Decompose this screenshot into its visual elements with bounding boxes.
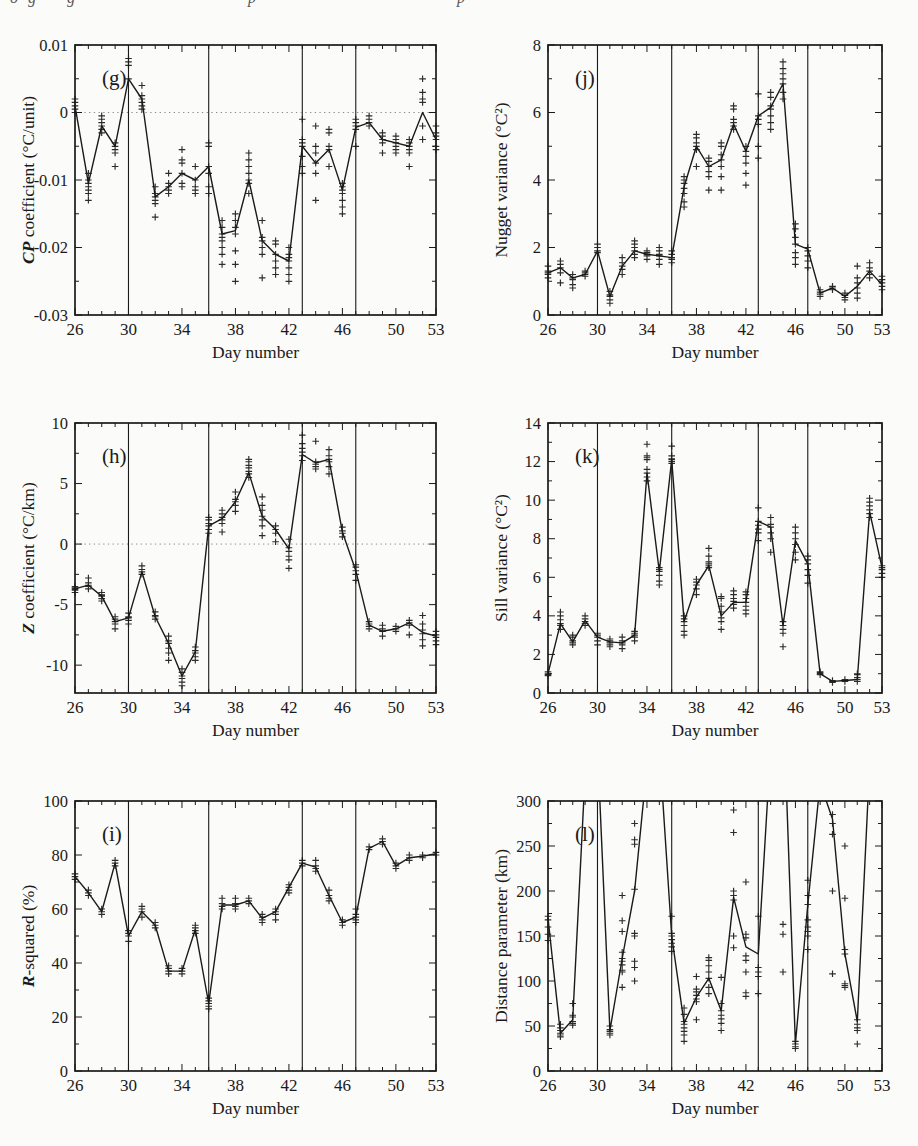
y-tick-label: 4 bbox=[533, 606, 541, 625]
y-tick-label: 60 bbox=[52, 900, 69, 919]
x-tick-label: 38 bbox=[227, 698, 244, 717]
x-tick-label: 38 bbox=[688, 1076, 705, 1095]
y-tick-label: 10 bbox=[52, 414, 69, 433]
y-tick-label: 0 bbox=[60, 535, 68, 554]
x-tick-label: 53 bbox=[874, 320, 891, 339]
x-axis-label: Day number bbox=[212, 1098, 299, 1118]
y-tick-label: 2 bbox=[533, 238, 541, 257]
x-tick-label: 34 bbox=[173, 1076, 191, 1095]
panel-letter: (g) bbox=[102, 66, 127, 90]
y-tick-label: -0.01 bbox=[34, 171, 68, 190]
x-tick-label: 30 bbox=[589, 698, 606, 717]
x-tick-label: 50 bbox=[387, 1076, 404, 1095]
y-axis-label: Nugget variance (°C²) bbox=[491, 102, 511, 257]
x-tick-label: 50 bbox=[836, 320, 853, 339]
y-tick-label: 0.01 bbox=[39, 36, 68, 55]
figure-panels: -0.03-0.02-0.0100.012630343842465053Day … bbox=[0, 0, 918, 1146]
panel-letter: (l) bbox=[575, 822, 595, 846]
x-tick-label: 26 bbox=[67, 698, 84, 717]
scatter-points bbox=[545, 59, 886, 307]
y-tick-label: -5 bbox=[54, 595, 68, 614]
y-tick-label: 100 bbox=[43, 792, 68, 811]
scatter-points bbox=[545, 441, 886, 686]
x-tick-label: 30 bbox=[120, 320, 137, 339]
x-tick-label: 30 bbox=[589, 320, 606, 339]
plot-border bbox=[548, 45, 882, 315]
y-tick-label: 4 bbox=[533, 171, 541, 190]
panel-k: 024681012142630343842465053Day numberSil… bbox=[478, 403, 918, 767]
y-tick-label: -0.02 bbox=[34, 238, 68, 257]
panel-g: -0.03-0.02-0.0100.012630343842465053Day … bbox=[20, 25, 470, 389]
x-tick-label: 46 bbox=[787, 1076, 804, 1095]
x-tick-label: 53 bbox=[428, 320, 445, 339]
y-tick-label: 100 bbox=[516, 972, 541, 991]
panel-l: 0501001502002503002630343842465053Day nu… bbox=[478, 781, 918, 1145]
mean-line bbox=[75, 79, 436, 261]
x-tick-label: 38 bbox=[227, 1076, 244, 1095]
x-tick-label: 50 bbox=[836, 1076, 853, 1095]
y-tick-label: 20 bbox=[52, 1008, 69, 1027]
y-tick-label: 2 bbox=[533, 645, 541, 664]
mean-line bbox=[548, 460, 882, 682]
x-tick-label: 53 bbox=[428, 698, 445, 717]
x-tick-label: 46 bbox=[334, 698, 351, 717]
x-tick-label: 42 bbox=[737, 320, 754, 339]
y-tick-label: 8 bbox=[533, 36, 541, 55]
x-axis-label: Day number bbox=[672, 720, 759, 740]
x-tick-label: 46 bbox=[334, 320, 351, 339]
x-tick-label: 46 bbox=[787, 698, 804, 717]
x-tick-label: 42 bbox=[280, 1076, 297, 1095]
x-tick-label: 42 bbox=[737, 698, 754, 717]
x-axis-label: Day number bbox=[212, 342, 299, 362]
x-tick-label: 53 bbox=[428, 1076, 445, 1095]
y-tick-label: 50 bbox=[525, 1017, 542, 1036]
x-tick-label: 42 bbox=[280, 698, 297, 717]
scatter-points bbox=[72, 432, 440, 689]
y-tick-label: 150 bbox=[516, 927, 541, 946]
panel-j: 024682630343842465053Day numberNugget va… bbox=[478, 25, 918, 389]
x-tick-label: 50 bbox=[387, 698, 404, 717]
y-tick-label: 8 bbox=[533, 529, 541, 548]
x-tick-label: 38 bbox=[227, 320, 244, 339]
x-tick-label: 34 bbox=[638, 1076, 656, 1095]
y-tick-label: 200 bbox=[516, 882, 541, 901]
y-tick-label: 5 bbox=[60, 474, 68, 493]
x-tick-label: 26 bbox=[67, 1076, 84, 1095]
y-tick-label: -10 bbox=[46, 656, 68, 675]
x-tick-label: 30 bbox=[120, 1076, 137, 1095]
x-tick-label: 38 bbox=[688, 698, 705, 717]
mean-line bbox=[548, 781, 882, 1044]
chart-j: 024682630343842465053Day numberNugget va… bbox=[478, 25, 918, 385]
panel-letter: (h) bbox=[102, 444, 127, 468]
x-tick-label: 42 bbox=[280, 320, 297, 339]
mean-line bbox=[548, 84, 882, 297]
chart-k: 024681012142630343842465053Day numberSil… bbox=[478, 403, 918, 763]
plot-border bbox=[548, 801, 882, 1071]
x-tick-label: 46 bbox=[334, 1076, 351, 1095]
plot-border bbox=[75, 45, 436, 315]
panel-h: -10-505102630343842465053Day numberZ coe… bbox=[20, 403, 470, 767]
chart-g: -0.03-0.02-0.0100.012630343842465053Day … bbox=[20, 25, 470, 385]
x-tick-label: 30 bbox=[120, 698, 137, 717]
y-tick-label: 40 bbox=[52, 954, 69, 973]
panel-letter: (j) bbox=[575, 66, 595, 90]
panel-letter: (i) bbox=[102, 822, 122, 846]
x-axis-label: Day number bbox=[672, 342, 759, 362]
x-tick-label: 34 bbox=[638, 698, 656, 717]
axis-ticks bbox=[75, 423, 436, 693]
y-tick-label: 6 bbox=[533, 568, 541, 587]
y-axis-label: Sill variance (°C²) bbox=[491, 494, 511, 622]
y-axis-label: Z coefficient (°C/km) bbox=[20, 482, 38, 635]
y-tick-label: 300 bbox=[516, 792, 541, 811]
chart-h: -10-505102630343842465053Day numberZ coe… bbox=[20, 403, 470, 763]
x-tick-label: 42 bbox=[737, 1076, 754, 1095]
plot-border bbox=[75, 423, 436, 693]
axis-ticks bbox=[75, 45, 436, 315]
x-tick-label: 50 bbox=[387, 320, 404, 339]
x-tick-label: 38 bbox=[688, 320, 705, 339]
x-tick-label: 53 bbox=[874, 1076, 891, 1095]
x-tick-label: 50 bbox=[836, 698, 853, 717]
mean-line bbox=[75, 842, 436, 1004]
axis-ticks bbox=[548, 45, 882, 315]
x-tick-label: 30 bbox=[589, 1076, 606, 1095]
